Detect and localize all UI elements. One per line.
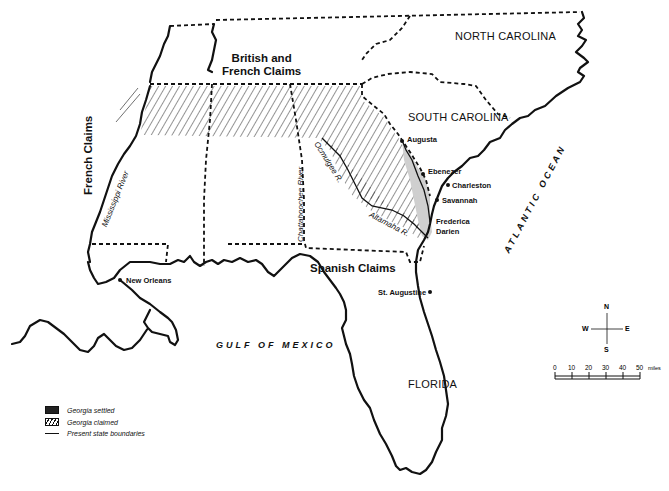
- legend-state-boundaries: Present state boundaries: [45, 430, 145, 437]
- compass-cross: [591, 313, 623, 344]
- label-florida: FLORIDA: [408, 378, 457, 390]
- compass-north: N: [604, 303, 609, 310]
- city-ebenezer: Ebenezer: [428, 167, 461, 176]
- nc-tn-boundary: [362, 16, 410, 60]
- scale-unit: miles: [648, 365, 661, 371]
- legend-swatch-claimed: [45, 418, 59, 426]
- legend-label-settled: Georgia settled: [67, 407, 114, 414]
- scale-tick-40: 40: [619, 364, 626, 371]
- compass-west: W: [582, 325, 589, 332]
- legend-label-claimed: Georgia claimed: [67, 419, 118, 426]
- compass-east: E: [625, 325, 630, 332]
- city-augusta: Augusta: [407, 135, 437, 144]
- legend-georgia-settled: Georgia settled: [45, 406, 114, 414]
- label-spanish-claims: Spanish Claims: [310, 262, 396, 275]
- claim-line-1: British and: [222, 52, 301, 65]
- tn-boundary: [170, 12, 580, 26]
- legend-label-boundaries: Present state boundaries: [67, 430, 145, 437]
- legend-swatch-settled: [45, 406, 59, 414]
- louisiana-coastline: [12, 280, 178, 352]
- scale-tick-30: 30: [602, 364, 609, 371]
- label-north-carolina: NORTH CAROLINA: [455, 30, 556, 42]
- legend-swatch-boundary: [45, 433, 59, 434]
- label-chattahoochee-river: Chattahoochee River: [296, 167, 305, 242]
- scale-tick-0: 0: [553, 364, 557, 371]
- city-darien: Darien: [436, 227, 459, 236]
- compass-south: S: [604, 346, 609, 353]
- label-french-claims: French Claims: [82, 116, 95, 195]
- claim-line-2: French Claims: [222, 65, 301, 78]
- scale-tick-50: 50: [636, 364, 643, 371]
- label-gulf-of-mexico: GULF OF MEXICO: [216, 340, 336, 350]
- city-st-augustine: St. Augustine: [378, 288, 426, 297]
- scale-tick-10: 10: [568, 364, 575, 371]
- scale-bar: [555, 372, 640, 379]
- city-savannah: Savannah: [442, 196, 477, 205]
- tn-river-loop: [208, 24, 216, 72]
- mississippi-west-boundary: [88, 26, 170, 262]
- scale-tick-20: 20: [585, 364, 592, 371]
- mississippi-hatch: [116, 88, 140, 122]
- city-charleston: Charleston: [452, 181, 491, 190]
- city-frederica: Frederica: [436, 217, 470, 226]
- label-british-french-claims: British and French Claims: [222, 52, 301, 78]
- la-ms-boundary: [92, 244, 304, 262]
- georgia-claimed-band: [140, 86, 428, 238]
- city-new-orleans: New Orleans: [126, 276, 171, 285]
- label-south-carolina: SOUTH CAROLINA: [408, 111, 509, 123]
- legend-georgia-claimed: Georgia claimed: [45, 418, 118, 426]
